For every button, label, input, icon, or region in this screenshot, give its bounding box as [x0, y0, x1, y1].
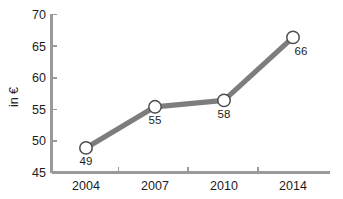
y-tick-label-70: 70 [32, 8, 46, 22]
line-chart: 45 50 55 60 65 70 in € 2004 2007 2010 20… [0, 0, 343, 199]
y-tick-label-45: 45 [32, 166, 46, 180]
x-tick-label-2004: 2004 [72, 179, 100, 193]
data-series-line [86, 37, 293, 147]
data-point-labels: 49 55 58 66 [80, 45, 308, 167]
x-tick-label-2007: 2007 [141, 179, 169, 193]
y-tick-label-50: 50 [32, 134, 46, 148]
data-point-marker-2007[interactable] [149, 101, 161, 113]
data-point-label-2014: 66 [295, 45, 308, 57]
x-tick-label-2010: 2010 [210, 179, 238, 193]
data-point-marker-2014[interactable] [287, 31, 299, 43]
data-point-marker-2010[interactable] [218, 94, 230, 106]
x-tick-label-2014: 2014 [279, 179, 307, 193]
chart-canvas: 45 50 55 60 65 70 in € 2004 2007 2010 20… [0, 0, 343, 199]
data-point-label-2004: 49 [80, 155, 93, 167]
x-axis-tick-labels: 2004 2007 2010 2014 [72, 179, 307, 193]
y-axis-tick-labels: 45 50 55 60 65 70 [32, 8, 46, 180]
data-point-label-2007: 55 [149, 114, 162, 126]
data-point-label-2010: 58 [218, 108, 231, 120]
y-tick-label-55: 55 [32, 103, 46, 117]
y-axis-title: in € [7, 87, 21, 107]
y-tick-label-60: 60 [32, 71, 46, 85]
y-tick-label-65: 65 [32, 40, 46, 54]
data-point-markers [80, 31, 299, 154]
data-point-marker-2004[interactable] [80, 142, 92, 154]
